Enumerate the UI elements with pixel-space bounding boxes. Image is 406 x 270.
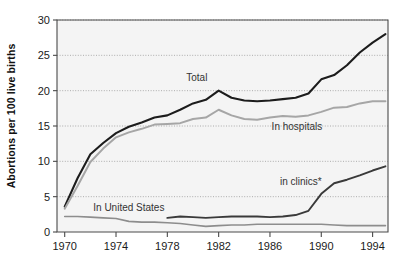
series-label-in-clinics: in clinics*	[280, 176, 322, 187]
x-tick-label: 1990	[309, 240, 333, 252]
chart-figure: Abortions per 100 live births 0510152025…	[0, 0, 406, 270]
x-tick-label: 1982	[206, 240, 230, 252]
y-tick-label: 10	[38, 155, 50, 167]
series-label-in-united-states: In United States	[93, 202, 164, 213]
x-axis-ticks: 1970197419781982198619901994	[52, 232, 384, 252]
y-tick-label: 30	[38, 14, 50, 26]
series-label-in-hospitals: In hospitals	[272, 121, 323, 132]
y-tick-label: 15	[38, 120, 50, 132]
line-chart-svg: 051015202530 197019741978198219861990199…	[0, 0, 406, 270]
plot-container: 051015202530 197019741978198219861990199…	[0, 0, 406, 270]
x-tick-label: 1974	[104, 240, 128, 252]
x-tick-label: 1970	[52, 240, 76, 252]
x-tick-label: 1978	[155, 240, 179, 252]
series-label-total: Total	[186, 72, 207, 83]
y-tick-label: 20	[38, 85, 50, 97]
y-axis-ticks: 051015202530	[38, 14, 57, 238]
y-tick-label: 25	[38, 49, 50, 61]
x-tick-label: 1986	[258, 240, 282, 252]
y-tick-label: 0	[44, 226, 50, 238]
y-tick-label: 5	[44, 191, 50, 203]
x-tick-label: 1994	[360, 240, 384, 252]
